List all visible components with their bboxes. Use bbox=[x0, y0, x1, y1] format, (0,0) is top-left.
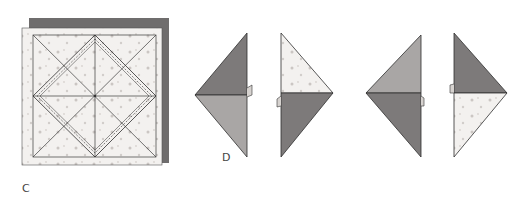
center-point bbox=[94, 95, 97, 98]
step-c-folded-square bbox=[22, 18, 169, 165]
diamond-3 bbox=[366, 35, 424, 157]
paper-front-sheet bbox=[22, 28, 162, 165]
flap-tab bbox=[247, 85, 252, 97]
step-label-d: D bbox=[222, 151, 230, 164]
diamond-1 bbox=[195, 33, 252, 157]
flap-tab bbox=[450, 84, 454, 93]
flap-tab bbox=[277, 96, 281, 107]
origami-diagram: C D bbox=[0, 0, 528, 197]
step-label-c: C bbox=[22, 182, 30, 195]
flap-tab bbox=[421, 96, 424, 106]
diamond-2 bbox=[277, 33, 333, 157]
diamond-4 bbox=[450, 33, 507, 157]
